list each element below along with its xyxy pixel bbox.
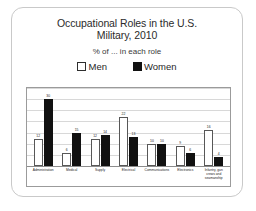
category-label: Infantry, gun crews and seamanship <box>200 168 228 188</box>
bar-value-label: 13 <box>132 133 136 136</box>
chart-legend: Men Women <box>12 61 242 72</box>
bar-group: 96 <box>171 88 199 166</box>
bar-wrapper: 4 <box>214 88 223 166</box>
legend-label-women: Women <box>144 61 177 72</box>
bar-wrapper: 10 <box>147 88 156 166</box>
category-label: Communications <box>143 168 171 188</box>
men-swatch-icon <box>77 62 86 71</box>
category-labels: AdministrationMedicalSupplyElectricalCom… <box>29 168 228 188</box>
bar-group: 1010 <box>143 88 171 166</box>
category-label: Electronics <box>171 168 199 188</box>
bar-wrapper: 9 <box>176 88 185 166</box>
bar-women[interactable] <box>214 157 223 166</box>
bar-value-label: 16 <box>207 126 211 129</box>
bar-value-label: 6 <box>189 149 191 152</box>
bar-women[interactable] <box>72 133 81 166</box>
chart-card: Occupational Roles in the U.S. Military,… <box>11 7 243 197</box>
bar-men[interactable] <box>176 146 185 166</box>
bar-value-label: 30 <box>46 95 50 98</box>
bar-value-label: 22 <box>122 113 126 116</box>
bar-group: 1214 <box>86 88 114 166</box>
bar-value-label: 12 <box>36 135 40 138</box>
bar-value-label: 4 <box>218 153 220 156</box>
bar-group: 164 <box>200 88 228 166</box>
bar-wrapper: 16 <box>204 88 213 166</box>
axis-baseline <box>27 166 230 167</box>
bar-wrapper: 10 <box>157 88 166 166</box>
bar-wrapper: 6 <box>186 88 195 166</box>
bar-wrapper: 6 <box>62 88 71 166</box>
bar-wrapper: 14 <box>101 88 110 166</box>
legend-item-men: Men <box>77 61 106 72</box>
category-label: Medical <box>57 168 85 188</box>
bar-value-label: 15 <box>75 129 79 132</box>
legend-item-women: Women <box>133 61 177 72</box>
bar-wrapper: 30 <box>44 88 53 166</box>
plot-area: 123061512142213101096164 AdministrationM… <box>26 87 231 187</box>
bar-wrapper: 15 <box>72 88 81 166</box>
category-label: Supply <box>86 168 114 188</box>
bar-value-label: 9 <box>179 142 181 145</box>
bar-value-label: 6 <box>66 149 68 152</box>
bar-men[interactable] <box>91 139 100 166</box>
bar-wrapper: 13 <box>129 88 138 166</box>
bar-women[interactable] <box>101 135 110 166</box>
chart-title-block: Occupational Roles in the U.S. Military,… <box>12 17 242 42</box>
bar-groups: 123061512142213101096164 <box>29 88 228 166</box>
chart-subtitle: % of ... in each role <box>12 47 242 56</box>
bar-men[interactable] <box>34 139 43 166</box>
bar-wrapper: 12 <box>91 88 100 166</box>
women-swatch-icon <box>133 62 142 71</box>
bar-group: 615 <box>57 88 85 166</box>
bar-men[interactable] <box>204 130 213 166</box>
bar-men[interactable] <box>147 144 156 166</box>
chart-title-line-1: Occupational Roles in the U.S. <box>12 17 242 29</box>
bar-women[interactable] <box>186 153 195 166</box>
bar-group: 2213 <box>114 88 142 166</box>
bar-value-label: 10 <box>160 140 164 143</box>
bar-value-label: 10 <box>150 140 154 143</box>
chart-title-line-2: Military, 2010 <box>12 29 242 41</box>
category-label: Administration <box>29 168 57 188</box>
bar-wrapper: 12 <box>34 88 43 166</box>
bar-wrapper: 22 <box>119 88 128 166</box>
bar-group: 1230 <box>29 88 57 166</box>
bar-women[interactable] <box>129 137 138 166</box>
bar-women[interactable] <box>157 144 166 166</box>
bar-value-label: 12 <box>93 135 97 138</box>
bar-value-label: 14 <box>103 131 107 134</box>
bar-men[interactable] <box>119 117 128 166</box>
bar-women[interactable] <box>44 99 53 166</box>
category-label: Electrical <box>114 168 142 188</box>
bar-men[interactable] <box>62 153 71 166</box>
legend-label-men: Men <box>88 61 106 72</box>
